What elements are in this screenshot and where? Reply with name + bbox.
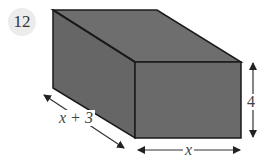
depth-label: x + 3: [57, 110, 95, 126]
width-label: x: [183, 142, 194, 158]
prism-front-face: [135, 62, 241, 138]
height-label: 4: [245, 94, 257, 110]
prism-drawing: [0, 0, 271, 167]
prism-diagram: 12 x + 3 x 4: [0, 0, 271, 167]
